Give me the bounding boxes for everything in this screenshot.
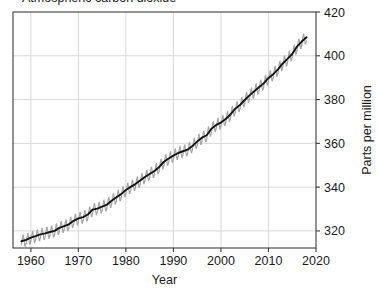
- y-axis-ticks: 320340360380400420: [316, 6, 345, 239]
- x-axis-title: Year: [152, 273, 177, 287]
- x-tick-label: 2010: [255, 254, 283, 268]
- x-tick-label: 1960: [17, 254, 45, 268]
- x-axis-ticks: 1960197019801990200020102020: [17, 248, 330, 268]
- x-tick-label: 1990: [160, 254, 188, 268]
- y-axis-title: Parts per million: [360, 85, 374, 175]
- y-tick-label: 320: [324, 224, 345, 238]
- y-tick-label: 360: [324, 137, 345, 151]
- x-tick-label: 2000: [207, 254, 235, 268]
- y-tick-label: 420: [324, 6, 345, 20]
- y-tick-label: 340: [324, 181, 345, 195]
- chart-canvas: 1960197019801990200020102020 32034036038…: [0, 0, 380, 290]
- chart-title-clipped: Atmospheric carbon dioxide: [22, 0, 176, 5]
- y-tick-label: 400: [324, 49, 345, 63]
- y-tick-label: 380: [324, 93, 345, 107]
- data-series-layer: [21, 34, 306, 246]
- plot-border: [13, 12, 316, 248]
- co2-chart-figure: Atmospheric carbon dioxide 1960197019801…: [0, 0, 380, 290]
- x-tick-label: 1980: [112, 254, 140, 268]
- x-tick-label: 1970: [64, 254, 92, 268]
- x-tick-label: 2020: [302, 254, 330, 268]
- grid-lines: [13, 12, 316, 248]
